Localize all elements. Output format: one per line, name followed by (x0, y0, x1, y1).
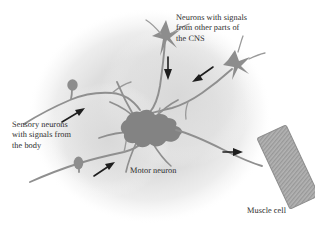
neuron-diagram (0, 0, 315, 235)
label-sensory-neurons: Sensory neurons with signals from the bo… (12, 120, 71, 151)
label-muscle-cell: Muscle cell (247, 206, 286, 216)
label-motor-neuron: Motor neuron (130, 166, 176, 176)
label-cns-neurons: Neurons with signals from other parts of… (176, 13, 247, 44)
figure-canvas: Neurons with signals from other parts of… (0, 0, 315, 235)
striated-muscle-cell (257, 125, 315, 209)
